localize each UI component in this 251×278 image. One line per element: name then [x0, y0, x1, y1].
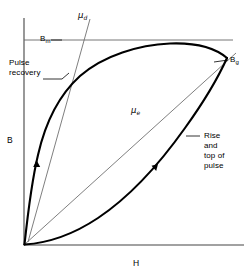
rise-top-of-pulse-label: Riseandtop ofpulse: [204, 131, 225, 171]
y-axis-label: B: [7, 136, 13, 146]
bg-label: Bg: [230, 55, 239, 68]
x-axis-label: H: [133, 259, 139, 269]
bh-loop-figure: μd μe Bm Bg Pulserecovery Riseandtop ofp…: [0, 0, 251, 278]
arrow-up-recovery-branch: [33, 160, 40, 167]
bm-label: Bm: [40, 34, 50, 47]
mu-e-label: μe: [131, 106, 140, 118]
pulse-recovery-leader-line: [43, 73, 69, 79]
pulse-recovery-label: Pulserecovery: [9, 58, 40, 78]
mu-d-slope-line: [28, 19, 90, 242]
mu-d-label: μd: [78, 11, 87, 23]
